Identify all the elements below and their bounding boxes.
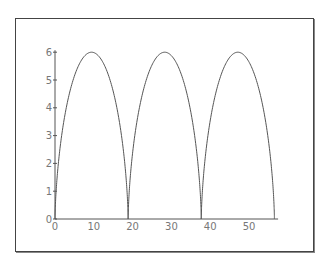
axes bbox=[53, 50, 278, 219]
x-tick-label: 10 bbox=[87, 221, 100, 232]
tick-labels: 012345601020304050 bbox=[46, 47, 256, 232]
x-tick-label: 20 bbox=[126, 221, 139, 232]
y-tick-label: 6 bbox=[46, 47, 52, 58]
cycloid-curve bbox=[55, 52, 274, 219]
y-tick-label: 1 bbox=[46, 186, 52, 197]
y-tick-label: 2 bbox=[46, 158, 52, 169]
x-tick-label: 30 bbox=[165, 221, 178, 232]
y-tick-label: 3 bbox=[46, 130, 52, 141]
cycloid-chart: 012345601020304050 bbox=[0, 0, 329, 268]
y-tick-label: 5 bbox=[46, 75, 52, 86]
x-tick-label: 50 bbox=[243, 221, 256, 232]
x-tick-label: 40 bbox=[204, 221, 217, 232]
y-tick-label: 4 bbox=[46, 102, 52, 113]
x-tick-label: 0 bbox=[52, 221, 58, 232]
